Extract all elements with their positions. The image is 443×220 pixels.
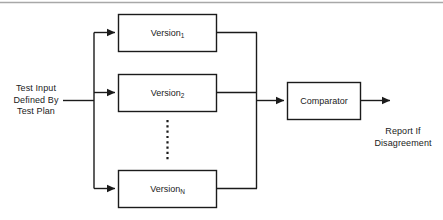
output-label-line-1: Report If xyxy=(366,126,440,138)
version-box-1-name: Version xyxy=(151,28,181,38)
input-label: Test Input Defined By Test Plan xyxy=(8,83,64,118)
diagram-vector-layer xyxy=(0,0,443,220)
version-box-n-label: VersionN xyxy=(118,185,217,194)
version-box-2-label: Version2 xyxy=(118,89,217,98)
version-box-2-name: Version xyxy=(151,88,181,98)
input-label-line-3: Test Plan xyxy=(8,106,64,118)
output-label-line-2: Disagreement xyxy=(366,138,440,150)
version-box-n-name: Version xyxy=(150,184,180,194)
version-box-1-label: Version1 xyxy=(118,29,217,38)
version-box-1-subscript: 1 xyxy=(181,32,185,39)
comparator-label: Comparator xyxy=(287,97,361,106)
input-label-line-1: Test Input xyxy=(8,83,64,95)
output-label: Report If Disagreement xyxy=(366,126,440,149)
diagram-canvas: Test Input Defined By Test Plan Version1… xyxy=(0,0,443,220)
version-box-n-subscript: N xyxy=(180,188,185,195)
input-label-line-2: Defined By xyxy=(8,95,64,107)
version-box-2-subscript: 2 xyxy=(181,92,185,99)
